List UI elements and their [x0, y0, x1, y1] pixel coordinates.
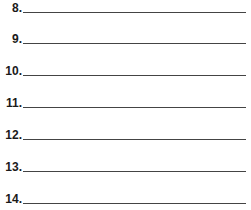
answer-row-8: 8. — [0, 0, 251, 14]
item-number: 14. — [5, 193, 22, 205]
item-number: 9. — [12, 33, 22, 45]
item-number: 13. — [5, 161, 22, 173]
answer-blank[interactable] — [23, 139, 246, 140]
answer-blank[interactable] — [23, 75, 246, 76]
answer-row-9: 9. — [0, 25, 251, 45]
answer-blank[interactable] — [23, 203, 246, 204]
answer-blank[interactable] — [23, 43, 246, 44]
item-number: 10. — [5, 65, 22, 77]
item-number: 8. — [12, 2, 22, 14]
item-number: 11. — [6, 97, 22, 109]
answer-row-10: 10. — [0, 57, 251, 77]
answer-blank[interactable] — [23, 12, 246, 13]
answer-row-12: 12. — [0, 121, 251, 141]
item-number: 12. — [5, 129, 22, 141]
answer-blank[interactable] — [23, 171, 246, 172]
answer-blank[interactable] — [23, 107, 246, 108]
answer-row-13: 13. — [0, 153, 251, 173]
answer-row-11: 11. — [0, 89, 251, 109]
answer-row-14: 14. — [0, 185, 251, 205]
